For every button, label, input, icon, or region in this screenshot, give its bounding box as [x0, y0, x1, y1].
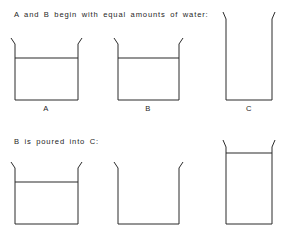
vessel-label-a: A [26, 104, 66, 113]
vessel-label-c: C [229, 104, 269, 113]
beaker-vessel-b-initial [110, 38, 187, 104]
beaker-outline [114, 162, 183, 224]
beaker-vessel-c-initial [219, 12, 279, 104]
caption-poured-state: B is poured into C: [14, 137, 99, 146]
beaker-outline [11, 162, 82, 224]
beaker-outline [114, 38, 183, 100]
beaker-vessel-c-poured [219, 140, 279, 228]
beaker-vessel-b-poured [110, 162, 187, 228]
beaker-outline [11, 38, 82, 100]
figure-canvas: A and B begin with equal amounts of wate… [0, 0, 284, 237]
vessel-label-b: B [128, 104, 168, 113]
caption-initial-state: A and B begin with equal amounts of wate… [14, 10, 209, 19]
beaker-vessel-a-initial [7, 38, 86, 104]
beaker-outline [223, 12, 275, 100]
beaker-vessel-a-poured [7, 162, 86, 228]
